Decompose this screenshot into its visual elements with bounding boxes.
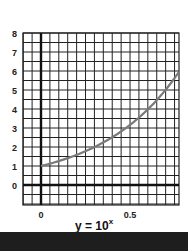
y-tick-label: 3 [12,124,17,134]
y-tick-label: 4 [12,105,17,115]
y-tick-label: 7 [12,48,17,58]
y-tick-labels: 876543210 [12,29,17,191]
grid-lines [23,33,179,205]
y-tick-label: 1 [12,162,17,172]
y-tick-label: 6 [12,67,17,77]
equation-base: y = 10 [75,219,109,233]
y-tick-label: 2 [12,143,17,153]
bottom-bar [0,232,188,251]
equation-exponent: x [109,217,113,226]
equation-label: y = 10x [0,218,188,233]
y-tick-label: 8 [12,29,17,39]
y-tick-label: 5 [12,86,17,96]
exponential-chart: 876543210 00.5 [0,0,188,232]
y-tick-label: 0 [12,181,17,191]
